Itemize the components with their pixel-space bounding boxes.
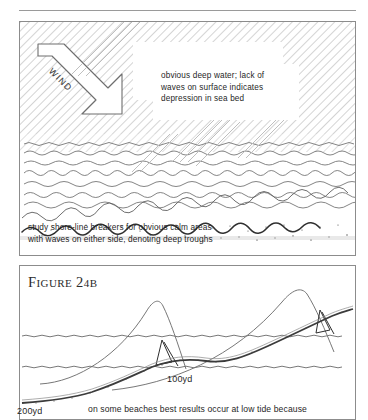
figure-page: WIND obvious deep water; lack of waves o… [0,0,368,420]
wave-crest-outer [112,290,334,390]
figure-title: FIGURE 24B [28,274,97,291]
caption-line-2: with waves on either side, denoting deep… [28,234,328,246]
callout-line-1: obvious deep water; lack of [161,71,264,80]
top-divider-rule [19,10,356,11]
figure-title-text: FIGURE 24B [28,274,97,290]
water-level-upper [22,335,342,337]
scale-label-200yd: 200yd [17,406,43,416]
shoreline-caption: study shore-line breakers for obvious ca… [28,222,328,245]
caption-line-1: study shore-line breakers for obvious ca… [28,222,328,234]
sea-bed-upper-edge [22,306,353,400]
deep-water-callout: obvious deep water; lack of waves on sur… [153,64,299,120]
sea-surface-panel: WIND obvious deep water; lack of waves o… [19,21,356,256]
low-tide-note: on some beaches best results occur at lo… [88,404,363,415]
water-level-lower [22,366,342,368]
callout-line-2: waves on surface indicates [161,83,263,92]
sea-surface-illustration [20,22,355,255]
sea-bed-profile [22,309,353,403]
callout-line-3: depression in sea bed [161,94,244,103]
scale-label-100yd: 100yd [167,374,193,384]
